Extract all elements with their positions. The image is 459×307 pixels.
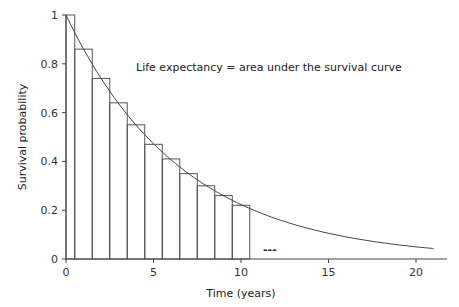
bar	[232, 205, 250, 259]
bar	[110, 103, 128, 259]
x-axis-title: Time (years)	[205, 287, 275, 300]
y-tick-label: 1	[51, 9, 58, 22]
x-tick-label: 10	[234, 266, 248, 279]
x-tick-label: 5	[150, 266, 157, 279]
area-bars	[66, 15, 250, 259]
bar	[215, 196, 233, 259]
y-tick-label: 0.4	[41, 155, 59, 168]
y-tick-label: 0.2	[41, 204, 59, 217]
bar	[75, 49, 93, 259]
y-tick-label: 0.6	[41, 107, 59, 120]
y-tick-label: 0	[51, 253, 58, 266]
bar	[162, 159, 180, 259]
bar	[66, 15, 75, 259]
bar	[92, 78, 110, 259]
axes: 00.20.40.60.8105101520	[41, 9, 448, 279]
x-tick-label: 15	[322, 266, 336, 279]
bar	[197, 186, 215, 259]
bar	[145, 144, 163, 259]
y-tick-label: 0.8	[41, 58, 59, 71]
x-tick-label: 20	[409, 266, 423, 279]
bar	[180, 174, 198, 259]
annotation-text: Life expectancy = area under the surviva…	[136, 61, 402, 74]
ellipsis-marker: ---	[263, 243, 277, 256]
bar	[127, 125, 145, 259]
y-axis-title: Survival probability	[16, 83, 29, 190]
survival-chart: 00.20.40.60.8105101520 Life expectancy =…	[0, 0, 459, 307]
x-tick-label: 0	[63, 266, 70, 279]
